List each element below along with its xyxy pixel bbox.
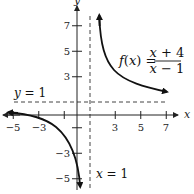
x-tick-label-m5: −5 <box>6 122 21 133</box>
y-axis-label: y <box>73 0 81 7</box>
function-graph: −5 −3 3 5 7 7 5 3 −3 −5 x y y = 1 x = 1 … <box>0 0 194 194</box>
y-tick-label-m5: −5 <box>55 173 70 184</box>
svg-text:x + 4: x + 4 <box>150 45 185 60</box>
y-tick-label-7: 7 <box>64 20 70 31</box>
x-tick-label-3: 3 <box>112 122 118 133</box>
left-branch-left-arrow <box>8 112 18 113</box>
x-tick-label-5: 5 <box>138 122 144 133</box>
function-label: f(x) = x + 4 x − 1 <box>118 45 184 76</box>
x-axis-label: x <box>184 108 191 121</box>
x-tick-label-m3: −3 <box>32 122 47 133</box>
horizontal-asymptote-label: y = 1 <box>13 86 46 100</box>
svg-text:x − 1: x − 1 <box>150 61 185 76</box>
y-tick-label-m3: −3 <box>55 148 70 159</box>
y-tick-label-3: 3 <box>64 71 70 82</box>
vertical-asymptote-label: x = 1 <box>96 167 128 181</box>
x-tick-label-7: 7 <box>163 122 169 133</box>
y-tick-label-5: 5 <box>64 46 70 57</box>
